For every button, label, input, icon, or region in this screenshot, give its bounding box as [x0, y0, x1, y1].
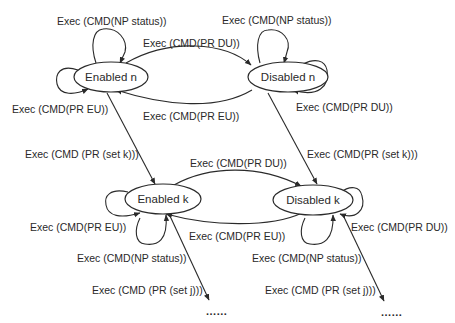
label-disabled-k-set-j: Exec (CMD (PR (set j))) [265, 284, 376, 296]
label-disabled-n-set-k: Exec (CMD(PR (set k))) [307, 148, 418, 160]
edge-disabled-n-to-enabled-n [116, 90, 252, 104]
state-disabled-k: Disabled k [273, 185, 353, 215]
label-enabled-k-np-status: Exec (CMD(NP status)) [77, 252, 187, 264]
label-disabled-n-np-status: Exec (CMD(NP status)) [222, 14, 332, 26]
state-label: Disabled k [286, 194, 340, 206]
label-disabled-k-self-du: Exec (CMD(PR DU)) [351, 221, 448, 233]
label-n-pr-du: Exec (CMD(PR DU)) [143, 37, 240, 49]
continuation-right: ...... [381, 306, 402, 318]
edge-disabled-k-to-enabled-k [166, 213, 302, 224]
state-enabled-n: Enabled n [74, 62, 148, 92]
state-transition-diagram: Enabled n Disabled n Enabled k Disabled … [0, 0, 455, 323]
state-disabled-n: Disabled n [248, 62, 328, 92]
edge-enabled-k-to-disabled-k [174, 170, 301, 186]
edge-enabled-n-to-enabled-k [107, 93, 155, 184]
label-enabled-k-self-eu: Exec (CMD(PR EU)) [30, 221, 126, 233]
label-k-pr-du: Exec (CMD(PR DU)) [190, 157, 287, 169]
label-disabled-k-np-status: Exec (CMD(NP status)) [252, 252, 362, 264]
edge-enabled-k-np-status [136, 215, 166, 244]
continuation-left: ...... [206, 305, 227, 317]
label-n-pr-eu: Exec (CMD(PR EU)) [143, 110, 239, 122]
label-enabled-n-set-k: Exec (CMD (PR (set k))) [25, 148, 139, 160]
edge-enabled-n-np-status [93, 29, 126, 63]
label-enabled-k-set-j: Exec (CMD (PR (set j))) [92, 284, 203, 296]
label-k-pr-eu: Exec (CMD(PR EU)) [189, 230, 285, 242]
label-enabled-n-self-eu: Exec (CMD(PR EU)) [12, 103, 108, 115]
state-label: Enabled n [85, 71, 137, 83]
state-enabled-k: Enabled k [125, 184, 201, 214]
state-label: Disabled n [261, 71, 315, 83]
state-label: Enabled k [137, 193, 188, 205]
edge-disabled-n-np-status [258, 30, 289, 63]
edge-disabled-k-np-status [301, 215, 333, 244]
label-disabled-n-self-du: Exec (CMD(PR DU)) [296, 101, 393, 113]
label-enabled-n-np-status: Exec (CMD(NP status)) [57, 15, 167, 27]
